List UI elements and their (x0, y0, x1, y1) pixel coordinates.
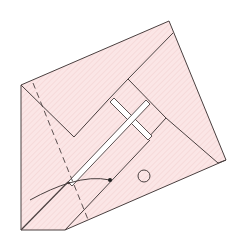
arrow-head-dot (108, 178, 112, 182)
origami-diagram (0, 0, 249, 238)
arrow-start-dot (68, 182, 71, 185)
